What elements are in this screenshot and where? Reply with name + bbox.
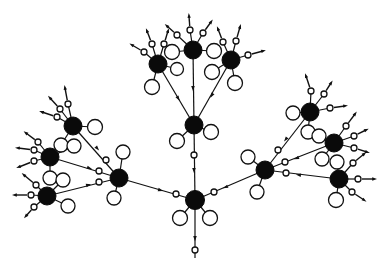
leaf-node [241,150,255,164]
outward-port-node [149,41,155,47]
edge-arrow-icon [94,145,99,150]
hub-node-root [186,191,205,210]
outward-arrow-icon [39,111,44,114]
edge-mid-to-root [194,125,195,200]
hub-node-right [256,161,274,179]
leaf-node [107,191,121,205]
leaf-node [205,65,220,80]
hub-node-top_right [222,51,240,69]
edge-arrow-icon [158,188,163,191]
hub-node-top_left [149,55,167,73]
leaf-node [250,185,264,199]
outward-port-node [351,145,357,151]
outward-port-node [57,106,63,112]
leaf-node [207,44,222,59]
outward-port-node [141,49,147,55]
hub-node-top [184,41,202,59]
hub-node-mid [185,116,203,134]
edge-port-node [173,191,179,197]
outward-arrow-icon [372,177,377,180]
leaf-node [329,193,344,208]
edge-port-node [275,147,281,153]
outward-port-node [31,158,37,164]
edge-port-node [191,152,197,158]
outward-port-node [343,123,349,129]
outward-port-node [31,147,37,153]
outward-port-node [161,41,167,47]
hub-node-right_c [330,170,348,188]
leaf-node [145,80,160,95]
leaf-node [228,76,243,91]
outward-arrow-icon [187,13,190,18]
outward-arrow-icon [15,147,20,150]
outward-port-node [349,189,355,195]
edge-right_c-to-right [265,170,339,179]
outward-port-node [54,114,60,120]
outward-arrow-icon [16,165,21,168]
outward-arrow-shaft [65,88,67,100]
outward-port-node [321,91,327,97]
outward-port-node [187,27,193,33]
outward-port-node [233,38,239,44]
edge-port-node [283,170,289,176]
edge-arrow-icon [191,86,195,91]
hub-node-left_b [41,148,59,166]
outward-arrow-icon [146,28,149,33]
edge-port-node [211,189,217,195]
outward-port-node [35,139,41,145]
leaf-node [61,199,75,213]
hub-node-right_b [325,134,343,152]
outward-arrow-icon [12,193,17,196]
outward-port-node [245,52,251,58]
leaf-node [43,171,57,185]
outward-port-node [31,204,37,210]
edge-arrow-icon [176,95,180,100]
edge-arrow-icon [210,92,214,97]
outward-arrow-icon [305,73,308,78]
outward-port-node [220,39,226,45]
hub-node-left_a [64,117,82,135]
outward-arrow-icon [343,105,348,108]
outward-arrow-icon [217,26,220,31]
outward-arrow-icon [364,129,369,133]
leaf-node [204,125,219,140]
edge-left-to-root [119,178,195,200]
hub-node-left_c [38,187,56,205]
leaf-node [286,106,300,120]
edge-arrow-icon [223,185,228,189]
outward-arrow-icon [166,28,169,33]
edge-port-node [103,157,109,163]
outward-port-node [33,182,39,188]
edge-port-node [96,179,102,185]
edge-port-node [282,159,288,165]
outward-arrow-icon [261,50,266,53]
edge-port-node [192,247,198,253]
leaf-node [170,134,185,149]
outward-arrow-shaft [19,162,30,167]
edge-arrow-icon [87,166,92,169]
leaf-node [116,145,130,159]
leaf-node [171,63,184,76]
outward-arrow-icon [64,85,67,90]
leaf-node [56,173,70,187]
hub-node-right_a [301,103,319,121]
leaf-node [330,155,344,169]
leaf-node [173,211,188,226]
outward-port-node [28,192,34,198]
outward-port-node [65,101,71,107]
edge-arrow-icon [193,236,197,241]
leaf-node [67,139,81,153]
network-diagram [0,0,388,271]
outward-port-node [174,32,180,38]
outward-port-node [327,105,333,111]
outward-arrow-shaft [18,148,30,150]
leaf-node [88,120,103,135]
leaf-node [203,211,218,226]
edge-port-node [96,168,102,174]
outward-port-node [308,88,314,94]
outward-port-node [350,160,356,166]
outward-port-node [351,133,357,139]
leaf-node [165,45,180,60]
leaf-node [312,129,326,143]
edge-arrow-icon [294,156,299,160]
